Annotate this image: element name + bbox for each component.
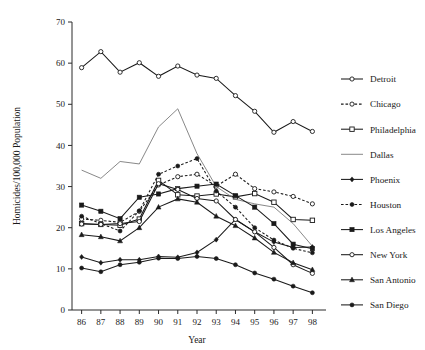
data-point-filled-circle xyxy=(310,251,314,255)
data-point-filled-square xyxy=(99,209,103,213)
legend-item-label: Chicago xyxy=(370,99,401,109)
data-point-open-circle xyxy=(176,187,180,191)
data-point-filled-circle xyxy=(195,255,199,259)
data-point-filled-circle xyxy=(291,284,295,288)
data-point-open-square xyxy=(291,217,295,221)
data-point-filled-circle xyxy=(137,209,141,213)
data-point-filled-square xyxy=(137,195,141,199)
data-point-filled-square xyxy=(233,194,237,198)
legend-item-label: San Antonio xyxy=(370,275,416,285)
data-point-open-circle xyxy=(176,175,180,179)
data-point-filled-circle xyxy=(272,277,276,281)
data-point-filled-circle xyxy=(214,189,218,193)
homicide-rate-line-chart: 010203040506070 868788899091929394959697… xyxy=(0,0,425,350)
data-point-open-circle xyxy=(253,109,257,113)
data-point-open-circle xyxy=(176,64,180,68)
y-axis-tick-label: 0 xyxy=(61,305,66,315)
legend-swatch-marker xyxy=(350,228,354,232)
data-point-open-circle xyxy=(233,94,237,98)
chart-background xyxy=(0,0,425,350)
x-axis-tick-label: 94 xyxy=(231,317,241,327)
data-point-open-circle xyxy=(80,66,84,70)
y-axis-title: Homicides/100,000 Population xyxy=(12,107,22,225)
x-axis-tick-label: 86 xyxy=(77,317,87,327)
data-point-filled-square xyxy=(118,217,122,221)
data-point-filled-square xyxy=(310,247,314,251)
x-axis-tick-label: 92 xyxy=(193,317,202,327)
data-point-open-circle xyxy=(291,119,295,123)
data-point-filled-square xyxy=(253,205,257,209)
legend-item-label: Phoenix xyxy=(370,175,401,185)
data-point-filled-circle xyxy=(310,291,314,295)
data-point-filled-circle xyxy=(272,238,276,242)
data-point-open-circle xyxy=(137,219,141,223)
data-point-filled-circle xyxy=(157,256,161,260)
x-axis-tick-label: 89 xyxy=(135,317,145,327)
legend-swatch-marker xyxy=(350,253,354,257)
data-point-open-square xyxy=(252,191,256,195)
x-axis-tick-label: 93 xyxy=(212,317,222,327)
x-axis-tick-label: 90 xyxy=(154,317,164,327)
legend-swatch-marker xyxy=(350,303,354,307)
legend-item-label: San Diego xyxy=(370,300,409,310)
x-axis-title: Year xyxy=(188,335,206,345)
data-point-open-circle xyxy=(156,182,160,186)
y-axis-tick-label: 10 xyxy=(56,264,66,274)
data-point-open-circle xyxy=(80,222,84,226)
y-axis-tick-label: 50 xyxy=(56,99,66,109)
data-point-filled-circle xyxy=(137,260,141,264)
data-point-filled-square xyxy=(195,184,199,188)
legend-item-label: Dallas xyxy=(370,150,394,160)
x-axis-tick-label: 91 xyxy=(173,317,182,327)
data-point-open-circle xyxy=(233,217,237,221)
data-point-open-circle xyxy=(310,202,314,206)
data-point-filled-circle xyxy=(80,266,84,270)
x-axis-tick-label: 97 xyxy=(289,317,299,327)
y-axis-tick-label: 70 xyxy=(56,17,66,27)
x-axis-tick-label: 96 xyxy=(269,317,279,327)
x-axis-tick-label: 95 xyxy=(250,317,260,327)
data-point-filled-circle xyxy=(253,226,257,230)
data-point-open-circle xyxy=(253,187,257,191)
data-point-open-circle xyxy=(253,230,257,234)
x-axis-tick-label: 98 xyxy=(308,317,318,327)
data-point-filled-circle xyxy=(118,229,122,233)
data-point-open-circle xyxy=(310,129,314,133)
data-point-open-square xyxy=(272,200,276,204)
data-point-open-circle xyxy=(214,199,218,203)
data-point-open-circle xyxy=(214,76,218,80)
data-point-open-circle xyxy=(272,245,276,249)
data-point-filled-circle xyxy=(157,172,161,176)
x-axis-tick-label: 87 xyxy=(96,317,106,327)
data-point-filled-circle xyxy=(233,263,237,267)
data-point-open-circle xyxy=(291,194,295,198)
data-point-filled-circle xyxy=(176,164,180,168)
data-point-filled-circle xyxy=(253,271,257,275)
data-point-filled-square xyxy=(214,182,218,186)
legend-item-label: Philadelphia xyxy=(370,125,416,135)
data-point-open-circle xyxy=(195,73,199,77)
legend-item-label: New York xyxy=(370,250,408,260)
chart-canvas: 010203040506070 868788899091929394959697… xyxy=(0,0,425,350)
data-point-open-circle xyxy=(233,172,237,176)
data-point-open-circle xyxy=(195,172,199,176)
data-point-open-circle xyxy=(310,271,314,275)
data-point-open-circle xyxy=(99,50,103,54)
data-point-filled-square xyxy=(272,222,276,226)
data-point-filled-circle xyxy=(214,257,218,261)
data-point-filled-circle xyxy=(195,157,199,161)
legend-swatch-marker xyxy=(350,127,354,131)
data-point-open-square xyxy=(310,218,314,222)
legend-swatch-marker xyxy=(350,77,354,81)
data-point-filled-square xyxy=(291,242,295,246)
legend-item-label: Los Angeles xyxy=(370,225,416,235)
legend-swatch-marker xyxy=(350,102,354,106)
data-point-open-circle xyxy=(137,61,141,65)
data-point-open-circle xyxy=(118,222,122,226)
legend-swatch-marker xyxy=(350,203,354,207)
data-point-filled-square xyxy=(80,203,84,207)
data-point-filled-circle xyxy=(80,214,84,218)
data-point-filled-circle xyxy=(233,205,237,209)
legend-item-label: Houston xyxy=(370,200,402,210)
legend-item-label: Detroit xyxy=(370,74,396,84)
